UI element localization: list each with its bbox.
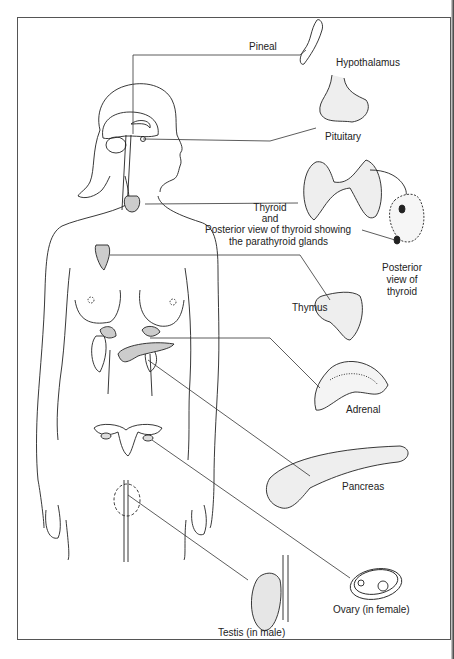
thyroid-small — [124, 196, 139, 212]
label-hypothalamus: Hypothalamus — [336, 57, 400, 69]
testis-drawing — [251, 555, 288, 630]
label-posterior-2: view of — [372, 274, 432, 286]
ovary-drawing — [348, 565, 404, 604]
body-outline — [37, 84, 219, 562]
label-pancreas: Pancreas — [342, 481, 384, 493]
label-adrenal: Adrenal — [346, 404, 380, 416]
adrenal-drawing — [315, 361, 388, 410]
pituitary-drawing — [320, 75, 369, 122]
thymus-drawing — [315, 292, 362, 340]
label-thymus: Thymus — [292, 302, 328, 314]
label-posterior-3: thyroid — [372, 286, 432, 298]
hypothalamus-pineal-drawing — [300, 20, 322, 65]
label-pineal: Pineal — [249, 41, 277, 53]
label-parathyroid: the parathyroid glands — [229, 236, 328, 248]
thymus-small — [95, 245, 109, 270]
endocrine-diagram — [0, 0, 454, 659]
pancreas-drawing — [266, 446, 408, 508]
label-posterior-1: Posterior — [372, 262, 432, 274]
label-thyroid-posterior: Posterior view of thyroid showing — [205, 224, 351, 236]
label-testis: Testis (in male) — [218, 627, 285, 639]
brain-section — [103, 112, 159, 210]
label-pituitary: Pituitary — [325, 131, 361, 143]
label-ovary: Ovary (in female) — [333, 604, 410, 616]
pancreas-small — [118, 343, 174, 362]
